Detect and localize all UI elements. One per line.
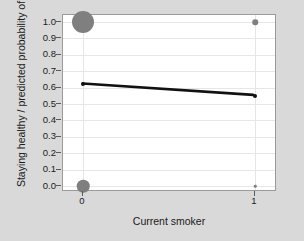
y-tick-label-0.5: 0.5 (28, 99, 56, 109)
y-tick-mark (56, 185, 61, 186)
y-tick-label-0.0: 0.0 (28, 181, 56, 191)
y-tick-label-1.0: 1.0 (28, 17, 56, 27)
y-tick-label-0.2: 0.2 (28, 148, 56, 158)
y-tick-mark (56, 103, 61, 104)
y-tick-mark (56, 136, 61, 137)
y-tick-mark (56, 152, 61, 153)
y-tick-mark (56, 119, 61, 120)
x-tick-label-1: 1 (244, 196, 264, 206)
y-tick-label-0.6: 0.6 (28, 82, 56, 92)
x-axis-label: Current smoker (62, 215, 276, 227)
y-tick-label-0.7: 0.7 (28, 66, 56, 76)
x-tick-label-0: 0 (72, 196, 92, 206)
y-tick-mark (56, 37, 61, 38)
line-endpoint-right (253, 94, 257, 98)
y-tick-label-0.3: 0.3 (28, 131, 56, 141)
prediction-line (63, 15, 275, 190)
y-tick-label-0.4: 0.4 (28, 115, 56, 125)
y-tick-mark (56, 21, 61, 22)
y-axis-label: Staying healthy / predicted probability … (15, 0, 27, 189)
y-tick-mark (56, 54, 61, 55)
plot-area (62, 14, 276, 191)
chart-figure: 1.0 0.9 0.8 0.7 0.6 0.5 0.4 0.3 0.2 0.1 … (0, 0, 304, 241)
y-tick-mark (56, 70, 61, 71)
y-tick-label-0.8: 0.8 (28, 49, 56, 59)
y-tick-mark (56, 169, 61, 170)
y-tick-mark (56, 87, 61, 88)
line-endpoint-left (81, 82, 85, 86)
y-tick-label-0.9: 0.9 (28, 33, 56, 43)
y-tick-label-0.1: 0.1 (28, 164, 56, 174)
